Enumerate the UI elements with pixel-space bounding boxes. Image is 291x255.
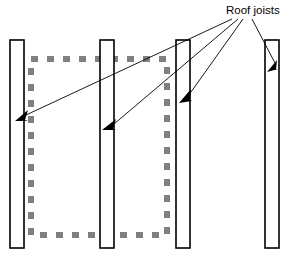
room-outline-dashed-rect xyxy=(31,59,167,235)
joist-bar-3 xyxy=(176,40,190,248)
leader-line-joist-1 xyxy=(26,19,232,115)
leader-line-group xyxy=(15,19,278,130)
leader-line-joist-3 xyxy=(191,19,243,92)
roof-joists-diagram: Roof joists xyxy=(0,0,291,255)
diagram-canvas: Roof joists xyxy=(0,0,291,255)
joist-bar-4 xyxy=(265,40,279,248)
joist-group xyxy=(10,40,279,248)
joist-bar-2 xyxy=(100,40,114,248)
joist-bar-1 xyxy=(10,40,24,248)
roof-joists-label: Roof joists xyxy=(226,4,280,16)
